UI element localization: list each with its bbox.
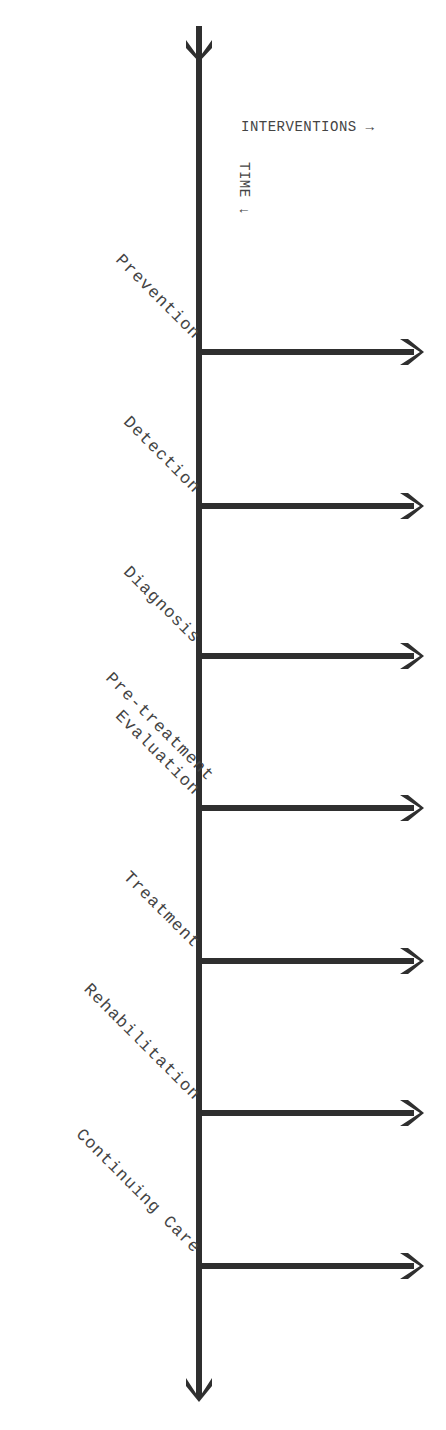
interventions-axis-label: INTERVENTIONS → bbox=[241, 119, 375, 135]
time-axis bbox=[186, 26, 212, 1402]
intervention-arrows bbox=[199, 339, 424, 1279]
timeline-diagram bbox=[0, 0, 446, 1430]
time-axis-label: TIME ↓ bbox=[236, 162, 252, 215]
